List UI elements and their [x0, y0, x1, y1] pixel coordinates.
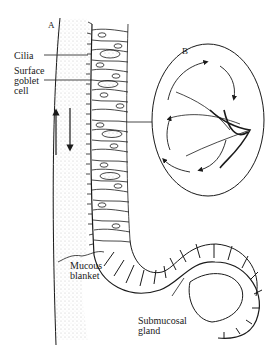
panel-b-magnified	[128, 44, 264, 196]
epithelium-cells	[86, 22, 130, 255]
panel-a-label: A	[48, 20, 55, 30]
mucous-blanket-label: Mucous blanket	[70, 261, 102, 281]
submucosal-gland-label: Submucosal gland	[138, 316, 187, 336]
surface-goblet-cell-label: Surface goblet cell	[14, 66, 45, 96]
diagram-drawing	[0, 0, 278, 354]
panel-b-label: B	[182, 46, 188, 56]
mucous-blanket	[52, 18, 92, 340]
gland-lumen	[189, 274, 243, 322]
epithelium-diagram: A B Cilia Surface goblet cell Mucous bla…	[0, 0, 278, 354]
cilia-label: Cilia	[14, 51, 33, 61]
